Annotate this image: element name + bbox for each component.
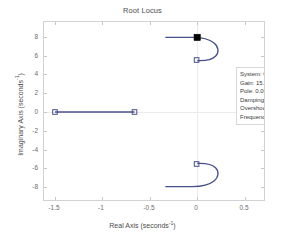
- ticklabel-x-4: 0.5: [239, 204, 248, 211]
- ticklabel-y-3: 2: [26, 89, 38, 96]
- y-axis-label: Imaginary Axis (seconds-1): [17, 35, 24, 195]
- ticklabel-x-3: 0: [194, 204, 198, 211]
- ticklabel-y-2: 4: [26, 70, 38, 77]
- data-tip-gain: Gain: 15.3: [240, 79, 265, 88]
- plot-area[interactable]: System: G Gain: 15.3 Pole: 0.00203 + 7.9…: [43, 21, 265, 201]
- ticklabel-y-4: 0: [26, 108, 38, 115]
- data-tip-damping: Damping: -0.000255: [240, 96, 265, 105]
- x-axis-label-close: ): [173, 222, 175, 229]
- ticklabel-y-1: 6: [26, 52, 38, 59]
- ticklabel-y-5: -2: [24, 127, 38, 134]
- root-locus-figure: Root Locus: [0, 0, 285, 240]
- y-axis-label-close: ): [17, 73, 24, 75]
- data-tip-pole: Pole: 0.00203 + 7.97i: [240, 87, 265, 96]
- ticklabel-x-1: -1: [98, 204, 104, 211]
- ticklabel-x-0: -1.5: [48, 204, 59, 211]
- locus-path-lower: [165, 163, 218, 186]
- page-title: Root Locus: [0, 6, 285, 15]
- data-tip-system: System: G: [240, 70, 265, 79]
- locus-curves: [44, 22, 265, 201]
- ticklabel-y-0: 8: [26, 33, 38, 40]
- locus-path-upper: [165, 37, 218, 60]
- selected-pole-marker[interactable]: [194, 34, 200, 40]
- y-axis-label-exponent: -1: [14, 76, 20, 80]
- x-axis-label: Real Axis (seconds-1): [0, 222, 285, 229]
- ticklabel-y-8: -8: [24, 183, 38, 190]
- data-tip-frequency: Frequency (rad/s): 7.97: [240, 113, 265, 122]
- data-tip-overshoot: Overshoot (%): 100: [240, 104, 265, 113]
- ticklabel-y-7: -6: [24, 164, 38, 171]
- x-axis-label-text: Real Axis (seconds: [109, 222, 169, 229]
- ticklabel-x-2: -0.5: [143, 204, 154, 211]
- ticklabel-y-6: -4: [24, 146, 38, 153]
- y-axis-label-text: Imaginary Axis (seconds: [17, 80, 24, 156]
- data-tip-box[interactable]: System: G Gain: 15.3 Pole: 0.00203 + 7.9…: [236, 67, 265, 125]
